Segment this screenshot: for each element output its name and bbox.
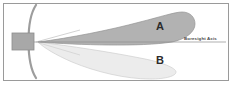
figure-root: A B Boresight Axis xyxy=(0,0,234,86)
lobe-b-label: B xyxy=(156,54,164,66)
boresight-axis-label: Boresight Axis xyxy=(184,36,217,41)
lobe-a-label: A xyxy=(156,20,164,32)
waveguide-feed-block xyxy=(12,33,34,50)
antenna-pattern-diagram: A B Boresight Axis xyxy=(0,0,234,86)
lobe-a-shape xyxy=(38,12,195,45)
